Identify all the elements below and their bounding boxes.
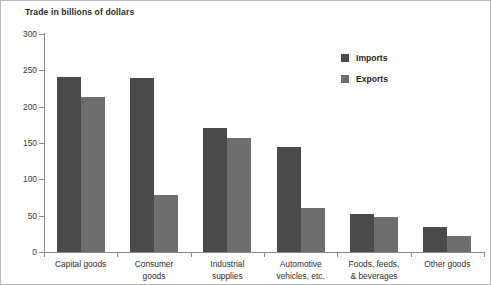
y-axis-tick (39, 34, 45, 35)
bar-group (130, 34, 178, 252)
bar-exports (227, 138, 251, 252)
x-axis-category-label: Consumergoods (117, 259, 190, 282)
y-axis-tick-label: 0 (3, 247, 37, 257)
chart-legend: ImportsExports (341, 53, 388, 95)
y-axis-tick (39, 179, 45, 180)
bar-group (423, 34, 471, 252)
y-axis-tick (39, 70, 45, 71)
legend-label: Exports (356, 74, 388, 84)
legend-label: Imports (356, 53, 388, 63)
x-axis-category-label: Capital goods (44, 259, 117, 271)
y-axis-tick (39, 143, 45, 144)
x-axis-category-label: Automotivevehicles, etc. (264, 259, 337, 282)
bar-imports (57, 77, 81, 252)
bar-exports (154, 195, 178, 252)
bar-imports (277, 147, 301, 252)
y-axis-tick-label: 300 (3, 29, 37, 39)
bar-imports (130, 78, 154, 252)
y-axis-tick-label: 250 (3, 65, 37, 75)
legend-swatch-icon (341, 75, 349, 83)
chart-title: Trade in billions of dollars (25, 7, 134, 17)
bar-exports (374, 217, 398, 252)
y-axis-tick-label: 50 (3, 211, 37, 221)
bar-exports (81, 97, 105, 253)
y-axis-tick-label: 200 (3, 102, 37, 112)
bar-imports (423, 227, 447, 252)
x-axis-tick (191, 252, 192, 257)
y-axis-tick-label: 100 (3, 174, 37, 184)
legend-swatch-icon (341, 54, 349, 62)
bar-exports (447, 236, 471, 252)
y-axis-tick-label: 150 (3, 138, 37, 148)
bar-exports (301, 208, 325, 252)
x-axis-tick (117, 252, 118, 257)
x-axis-tick (44, 252, 45, 257)
x-axis-category-label: Other goods (411, 259, 484, 271)
bar-imports (350, 214, 374, 253)
legend-item-imports[interactable]: Imports (341, 53, 388, 63)
x-axis-category-label: Foods, feeds,& beverages (337, 259, 410, 282)
x-axis-category-label: Industrialsupplies (191, 259, 264, 282)
bar-group (277, 34, 325, 252)
chart-container: Trade in billions of dollars 05010015020… (0, 0, 491, 285)
bar-group (203, 34, 251, 252)
x-axis-tick (484, 252, 485, 257)
y-axis-tick (39, 216, 45, 217)
bar-imports (203, 128, 227, 252)
legend-item-exports[interactable]: Exports (341, 74, 388, 84)
bar-group (57, 34, 105, 252)
y-axis-tick (39, 107, 45, 108)
x-axis-tick (411, 252, 412, 257)
x-axis-tick (264, 252, 265, 257)
y-axis-labels: 050100150200250300 (1, 1, 37, 285)
x-axis-tick (337, 252, 338, 257)
